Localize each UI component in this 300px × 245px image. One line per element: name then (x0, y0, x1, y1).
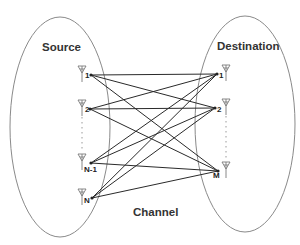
channel-label: Channel (133, 206, 178, 218)
diagram-svg: 12N-1N 12M Source Destination Channel (0, 0, 300, 245)
antenna-icon (222, 99, 230, 115)
source-antenna-label: N (84, 196, 90, 205)
source-label: Source (42, 41, 81, 53)
channel-links (90, 74, 218, 198)
channel-link (92, 74, 217, 198)
mimo-channel-diagram: 12N-1N 12M Source Destination Channel (0, 0, 300, 245)
destination-antennas: 12M (213, 65, 230, 180)
antenna-node (90, 196, 93, 199)
source-antenna-label: 1 (85, 71, 90, 80)
antenna-icon (222, 162, 230, 178)
antenna-node (89, 73, 92, 76)
destination-antenna-label: 1 (219, 71, 224, 80)
destination-antenna-label: 2 (217, 105, 222, 114)
source-antennas: 12N-1N (78, 66, 97, 205)
destination-antenna-label: M (213, 171, 220, 180)
destination-label: Destination (217, 40, 280, 52)
source-antenna-label: N-1 (84, 165, 97, 174)
source-antenna-label: 2 (85, 105, 90, 114)
channel-link (90, 108, 215, 109)
channel-link (91, 74, 217, 75)
